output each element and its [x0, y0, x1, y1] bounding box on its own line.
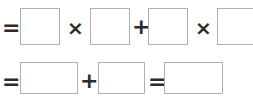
- multiply-sign: ×: [195, 18, 209, 38]
- equals-sign: =: [2, 17, 16, 39]
- answer-box-1[interactable]: [20, 8, 60, 45]
- answer-box-2[interactable]: [90, 8, 130, 45]
- answer-box-4[interactable]: [217, 8, 253, 45]
- plus-sign: +: [80, 70, 94, 92]
- multiply-sign: ×: [67, 18, 81, 38]
- answer-box-3[interactable]: [148, 8, 188, 45]
- equals-sign: =: [2, 71, 16, 93]
- equals-sign: =: [148, 71, 162, 93]
- plus-sign: +: [132, 16, 146, 38]
- answer-box-6[interactable]: [98, 62, 145, 94]
- answer-box-5[interactable]: [20, 62, 78, 94]
- answer-box-7[interactable]: [164, 62, 223, 94]
